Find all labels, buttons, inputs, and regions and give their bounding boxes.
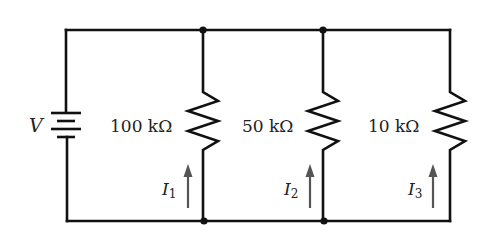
current-arrow-icon-3	[429, 164, 438, 208]
current-2-index: 2	[291, 187, 299, 201]
current-1-label: I1	[162, 181, 176, 200]
resistor-3-label: 10 kΩ	[368, 118, 419, 135]
voltage-label: V	[29, 116, 43, 135]
branch-1-wire	[188, 30, 218, 221]
current-2-label: I2	[284, 181, 298, 200]
current-3-symbol: I	[408, 179, 415, 199]
resistor-2-label: 50 kΩ	[242, 118, 293, 135]
current-3-label: I3	[408, 181, 422, 200]
current-1-symbol: I	[162, 179, 169, 199]
junction-dot-top-2	[319, 26, 326, 33]
current-arrow-icon-1	[184, 164, 193, 208]
resistor-1-label: 100 kΩ	[110, 118, 172, 135]
branch-3-wire	[435, 30, 465, 221]
branch-2-wire	[308, 30, 338, 221]
current-3-index: 3	[415, 187, 423, 201]
junction-dot-bottom-1	[200, 217, 207, 224]
battery-icon	[51, 113, 81, 137]
current-arrow-icon-2	[306, 164, 315, 208]
junction-dot-top-1	[199, 26, 206, 33]
junction-dot-bottom-2	[320, 217, 327, 224]
current-1-index: 1	[169, 187, 177, 201]
current-2-symbol: I	[284, 179, 291, 199]
